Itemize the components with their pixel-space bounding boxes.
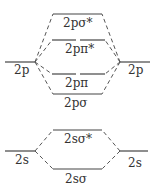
left-2p-label: 2p [14,63,30,77]
sigma-2p-star-label: 2pσ* [63,16,93,30]
sigma-2s-star-label: 2sσ* [64,132,92,146]
sigma-2s-label: 2sσ [65,172,87,186]
sigma-2p-label: 2pσ [64,96,88,110]
left-2s-label: 2s [15,153,29,167]
mo-diagram: 2p 2p 2pσ* 2pπ* 2pπ 2pσ 2s 2s 2sσ* 2sσ [0,0,157,190]
right-2s-label: 2s [128,156,142,170]
right-2p-label: 2p [128,63,144,77]
pi-2p-label: 2pπ [65,76,88,90]
pi-2p-star-label: 2pπ* [65,42,94,56]
